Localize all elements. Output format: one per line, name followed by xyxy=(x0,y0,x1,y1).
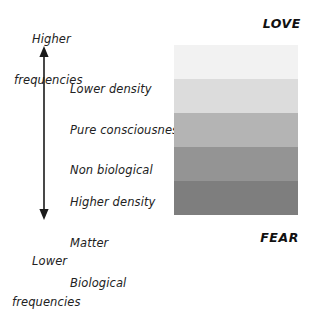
axis-bottom-label-line1: Lower xyxy=(12,255,81,269)
density-band-2 xyxy=(174,79,298,113)
annotation-top-line1: Lower density xyxy=(70,83,184,97)
annotation-top-line2: Pure consciousness xyxy=(70,124,184,138)
density-band-1 xyxy=(174,45,298,79)
axis-bottom-label-line2: frequencies xyxy=(12,296,81,310)
density-band-4 xyxy=(174,147,298,181)
density-band-5 xyxy=(174,181,298,215)
axis-bottom-label: Lower frequencies xyxy=(12,228,81,313)
annotation-bottom-line3: Biological xyxy=(70,277,155,291)
frequency-double-arrow-icon xyxy=(33,44,55,222)
annotation-bottom-line1: Higher density xyxy=(70,196,155,210)
density-gradient-bar xyxy=(174,45,298,215)
annotation-bottom-block: Higher density Matter Biological xyxy=(70,169,155,313)
annotation-bottom-line2: Matter xyxy=(70,237,155,251)
density-band-3 xyxy=(174,113,298,147)
pole-label-love: LOVE xyxy=(263,16,301,31)
pole-label-fear: FEAR xyxy=(260,230,299,245)
